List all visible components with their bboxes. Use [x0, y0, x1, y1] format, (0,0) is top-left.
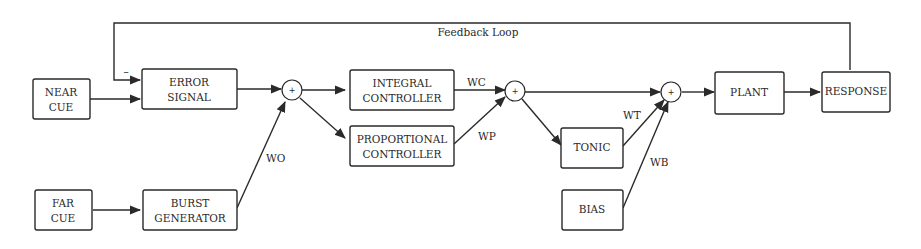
- svg-text:SIGNAL: SIGNAL: [167, 91, 210, 103]
- svg-text:TONIC: TONIC: [574, 141, 611, 153]
- svg-text:CONTROLLER: CONTROLLER: [363, 148, 443, 160]
- proportional-controller-block: PROPORTIONAL CONTROLLER: [350, 126, 454, 166]
- weight-wo: WO: [266, 152, 286, 164]
- error-signal-block: ERROR SIGNAL: [142, 69, 237, 109]
- svg-text:+: +: [512, 87, 519, 96]
- svg-text:BURST: BURST: [171, 197, 210, 209]
- tonic-block: TONIC: [561, 128, 623, 168]
- svg-text:RESPONSE: RESPONSE: [825, 85, 887, 97]
- integral-controller-block: INTEGRAL CONTROLLER: [350, 70, 454, 110]
- summing-junction-1: +: [282, 80, 302, 100]
- svg-text:+: +: [289, 86, 296, 95]
- svg-text:ERROR: ERROR: [169, 76, 210, 88]
- svg-text:GENERATOR: GENERATOR: [154, 212, 226, 224]
- plant-block: PLANT: [715, 72, 784, 114]
- svg-text:BIAS: BIAS: [579, 203, 606, 215]
- svg-text:CUE: CUE: [49, 101, 74, 113]
- svg-text:FAR: FAR: [52, 197, 75, 209]
- summing-junction-2: +: [505, 81, 525, 101]
- weight-wp: WP: [478, 130, 496, 142]
- response-block: RESPONSE: [822, 72, 890, 112]
- svg-text:CUE: CUE: [51, 212, 76, 224]
- svg-text:PROPORTIONAL: PROPORTIONAL: [357, 133, 448, 145]
- svg-text:NEAR: NEAR: [45, 86, 78, 98]
- weight-wb: WB: [650, 156, 669, 168]
- burst-generator-block: BURST GENERATOR: [143, 190, 237, 230]
- svg-text:CONTROLLER: CONTROLLER: [363, 92, 443, 104]
- far-cue-block: FAR CUE: [35, 190, 92, 230]
- svg-text:+: +: [668, 88, 675, 97]
- bias-block: BIAS: [562, 190, 623, 230]
- weight-wc: WC: [467, 76, 486, 88]
- block-diagram: Feedback Loop – WO WC WP WT WB + + +: [0, 0, 921, 249]
- svg-text:INTEGRAL: INTEGRAL: [373, 77, 432, 89]
- minus-sign: –: [123, 65, 128, 77]
- svg-text:PLANT: PLANT: [730, 86, 768, 98]
- weight-wt: WT: [623, 109, 641, 121]
- summing-junction-3: +: [661, 82, 681, 102]
- feedback-loop-label: Feedback Loop: [438, 26, 519, 38]
- near-cue-block: NEAR CUE: [33, 79, 90, 119]
